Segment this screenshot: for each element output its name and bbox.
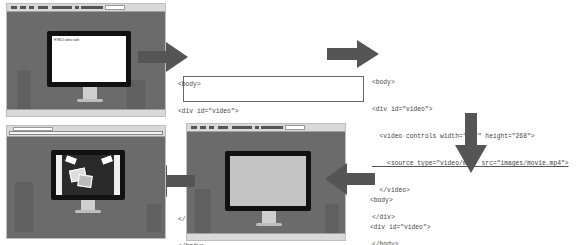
monitor-stand-base bbox=[75, 210, 101, 213]
video-playing[interactable] bbox=[56, 155, 120, 195]
code-line: <div id="video"> bbox=[178, 107, 341, 116]
status-bar bbox=[187, 233, 345, 240]
monitor-screen: HTML5 video code bbox=[52, 36, 126, 82]
monitor bbox=[225, 151, 311, 211]
monitor-stand-base bbox=[256, 223, 282, 226]
address-field bbox=[9, 131, 163, 135]
editor-toolbar bbox=[187, 124, 345, 132]
monitor: HTML5 video code bbox=[47, 31, 131, 87]
code-line: <div id="video"> bbox=[370, 223, 581, 232]
step3-screenshot bbox=[186, 123, 346, 241]
monitor-stand bbox=[83, 87, 97, 99]
status-bar bbox=[7, 109, 165, 116]
browser-address-bar bbox=[7, 126, 165, 137]
arrow-down-icon bbox=[455, 113, 487, 173]
step3-code: <body> <div id="video"> <video controls … bbox=[370, 178, 581, 245]
monitor-stand bbox=[81, 200, 95, 210]
arrow-left-icon bbox=[325, 163, 375, 195]
editor-toolbar bbox=[7, 4, 165, 12]
monitor-stand-base bbox=[77, 99, 103, 102]
code-line: <body> bbox=[178, 80, 341, 89]
code-line: <body> bbox=[370, 196, 581, 205]
monitor-screen bbox=[230, 156, 306, 206]
screen-text: HTML5 video code bbox=[54, 38, 79, 42]
code-line: <body> bbox=[372, 78, 569, 87]
step4-screenshot bbox=[6, 125, 166, 239]
monitor-stand bbox=[262, 211, 276, 223]
monitor bbox=[51, 150, 125, 200]
